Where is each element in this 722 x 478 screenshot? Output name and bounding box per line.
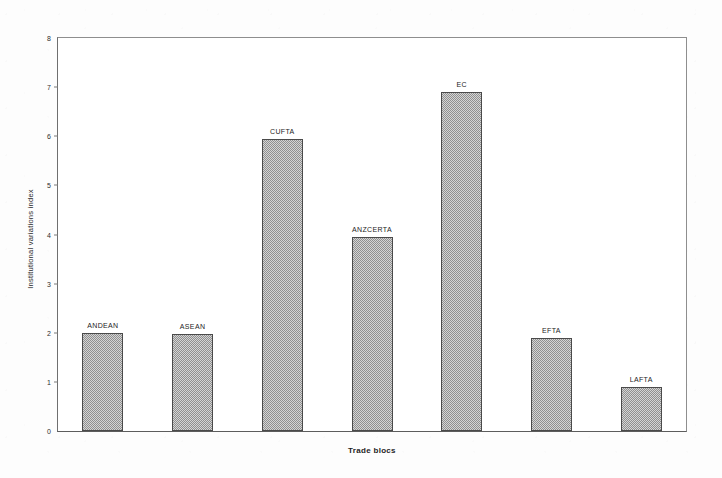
y-axis-tick-mark xyxy=(54,381,58,382)
y-axis-tick-mark xyxy=(54,136,58,137)
y-axis-tick-mark xyxy=(54,234,58,235)
bar-asean: ASEAN xyxy=(172,334,213,431)
bar-label: EFTA xyxy=(542,327,561,334)
bar-label: CUFTA xyxy=(270,128,295,135)
bar-lafta: LAFTA xyxy=(621,387,662,431)
bar-andean: ANDEAN xyxy=(82,333,123,431)
bar-label: ANDEAN xyxy=(87,322,118,329)
y-axis-tick-mark xyxy=(54,283,58,284)
bar-chart-figure: Institutional variations index 012345678… xyxy=(0,0,722,478)
bar-efta: EFTA xyxy=(531,338,572,431)
y-axis-tick-label: 0 xyxy=(47,428,58,435)
x-axis-title: Trade blocs xyxy=(57,446,687,455)
bar-label: ASEAN xyxy=(180,323,205,330)
plot-area: 012345678ANDEANASEANCUFTAANZCERTAECEFTAL… xyxy=(57,37,687,432)
y-axis-title: Institutional variations index xyxy=(26,109,35,369)
bar-label: ANZCERTA xyxy=(352,226,392,233)
bar-anzcerta: ANZCERTA xyxy=(352,237,393,431)
bar-ec: EC xyxy=(441,92,482,431)
y-axis-tick-mark xyxy=(54,185,58,186)
y-axis-tick-label: 8 xyxy=(47,35,58,42)
y-axis-tick-mark xyxy=(54,332,58,333)
bar-cufta: CUFTA xyxy=(262,139,303,431)
y-axis-tick-mark xyxy=(54,87,58,88)
bar-label: EC xyxy=(456,81,466,88)
bar-label: LAFTA xyxy=(630,376,653,383)
